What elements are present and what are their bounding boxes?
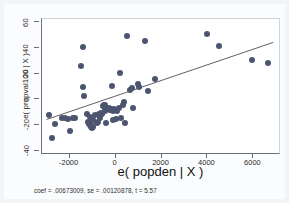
x-axis-title: e( popden | X ) [41, 164, 280, 179]
data-point [129, 85, 135, 91]
plot-area [41, 18, 280, 154]
y-tick-label: 40 [22, 44, 31, 53]
y-tick-mark [34, 47, 39, 48]
data-point [46, 112, 52, 118]
y-tick: 20 [4, 68, 26, 78]
y-tick: -40 [4, 145, 26, 155]
data-point [103, 120, 109, 126]
y-tick: -20 [4, 119, 26, 129]
scatter-points-layer [42, 19, 279, 153]
data-point [204, 31, 210, 37]
data-point [145, 88, 151, 94]
y-tick: 40 [4, 43, 26, 53]
data-point [80, 84, 86, 90]
data-point [124, 33, 130, 39]
data-point [136, 84, 142, 90]
data-point [109, 83, 115, 89]
data-point [67, 128, 73, 134]
y-axis-title-container: e( propval100 | X ) [16, 18, 30, 154]
data-point [52, 121, 58, 127]
data-point [72, 115, 78, 121]
data-point [80, 44, 86, 50]
data-point [130, 105, 136, 111]
data-point [117, 70, 123, 76]
data-point [78, 63, 84, 69]
data-point [265, 60, 271, 66]
data-point [121, 99, 127, 105]
data-point [142, 38, 148, 44]
data-point [122, 120, 128, 126]
y-tick-mark [34, 21, 39, 22]
y-tick-label: 20 [22, 69, 31, 78]
y-tick-mark [34, 98, 39, 99]
data-point [216, 43, 222, 49]
y-tick-label: 60 [22, 18, 31, 27]
y-tick-label: -20 [22, 119, 31, 130]
data-point [81, 93, 87, 99]
y-tick: 60 [4, 17, 26, 27]
y-tick-mark [34, 150, 39, 151]
figure-root: e( propval100 | X ) -40-200204060 -20000… [0, 0, 289, 203]
y-tick-label: 0 [22, 97, 31, 101]
figure-canvas: e( propval100 | X ) -40-200204060 -20000… [4, 4, 285, 199]
data-point [249, 57, 255, 63]
regression-caption: coef = .00673009, se = .00120878, t = 5.… [34, 187, 157, 194]
data-point [152, 76, 158, 82]
y-tick-label: -40 [22, 145, 31, 156]
y-tick-mark [34, 124, 39, 125]
y-axis-title: e( propval100 | X ) [21, 18, 33, 154]
y-tick: 0 [4, 94, 26, 104]
y-tick-mark [34, 73, 39, 74]
data-point [49, 135, 55, 141]
